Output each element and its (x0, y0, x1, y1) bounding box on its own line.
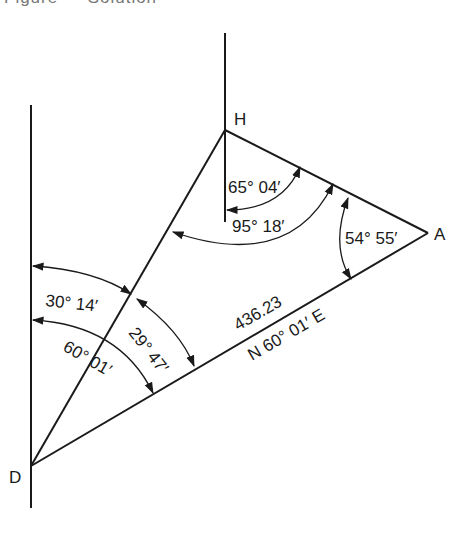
point-label-a: A (434, 225, 446, 244)
angle-label-d-north-dh: 30° 14′ (45, 291, 99, 315)
angle-label-d-north-da: 60° 01′ (60, 337, 115, 380)
angle-label-h-outer: 95° 18′ (232, 217, 285, 236)
arc-angle-d-north-dh (33, 266, 131, 294)
traverse-diagram: H A D 65° 04′ 95° 18′ 54° 55′ 30° 14′ 29… (0, 0, 469, 535)
angle-label-a: 54° 55′ (345, 229, 398, 248)
angle-label-d-dh-da: 29° 47′ (125, 324, 172, 377)
point-label-d: D (9, 468, 21, 487)
point-label-h: H (234, 110, 246, 129)
line-da-length-label: 436.23 (231, 292, 286, 334)
angle-label-h-inner: 65° 04′ (228, 178, 281, 197)
